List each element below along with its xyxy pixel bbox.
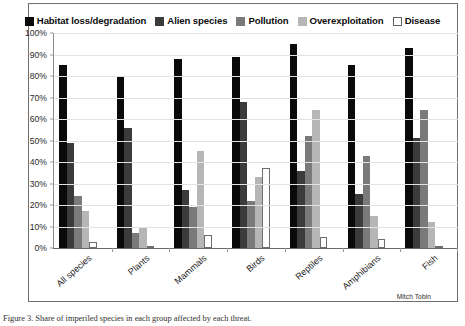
legend-swatch-icon	[236, 17, 245, 26]
gridline	[54, 33, 458, 34]
bar	[232, 57, 240, 248]
plot-canvas	[53, 33, 458, 249]
chart-legend: Habitat loss/degradationAlien speciesPol…	[0, 14, 465, 28]
bar	[435, 246, 443, 248]
bar	[197, 151, 205, 248]
figure-caption: Figure 3. Share of imperiled species in …	[3, 314, 462, 326]
plot-area: 100%90%80%70%60%50%40%30%20%10%0% All sp…	[20, 33, 465, 268]
y-axis-tick-label: 0%	[35, 243, 47, 253]
legend-swatch-icon	[298, 17, 307, 26]
bar	[405, 48, 413, 248]
gridline	[54, 98, 458, 99]
bar	[132, 233, 140, 248]
y-axis-tick-label: 90%	[30, 50, 47, 60]
bar	[320, 237, 328, 248]
y-axis-tick-label: 30%	[30, 179, 47, 189]
bar	[174, 59, 182, 248]
y-axis-tick-label: 60%	[30, 114, 47, 124]
x-axis-label: Reptiles	[293, 253, 324, 282]
bar	[413, 138, 421, 248]
legend-swatch-icon	[393, 17, 402, 26]
gridline	[54, 76, 458, 77]
bar	[355, 194, 363, 248]
bar	[305, 136, 313, 248]
bar	[297, 171, 305, 248]
y-axis-tick-label: 70%	[30, 93, 47, 103]
y-axis-tick-label: 50%	[30, 136, 47, 146]
y-axis-tick-label: 20%	[30, 200, 47, 210]
x-axis-label: Plants	[126, 253, 151, 277]
bar	[89, 242, 97, 248]
x-axis-label: Birds	[245, 253, 267, 274]
bar	[82, 211, 90, 248]
legend-label: Alien species	[167, 16, 227, 26]
bar	[370, 216, 378, 248]
x-axis-tick-mark	[457, 248, 458, 252]
gridline	[54, 227, 458, 228]
bar	[378, 239, 386, 248]
legend-item: Alien species	[155, 16, 227, 26]
legend-label: Habitat loss/degradation	[37, 16, 147, 26]
bar	[363, 156, 371, 248]
x-axis-label: Mammals	[173, 253, 209, 286]
bar	[247, 201, 255, 248]
legend-item: Disease	[393, 16, 441, 26]
legend-label: Pollution	[248, 16, 288, 26]
x-axis-labels: All speciesPlantsMammalsBirdsReptilesAmp…	[53, 249, 457, 295]
bar	[348, 65, 356, 248]
bar	[290, 44, 298, 248]
bar	[255, 177, 263, 248]
x-axis-label: Fish	[420, 253, 439, 272]
y-axis-tick-label: 10%	[30, 222, 47, 232]
figure-root: Habitat loss/degradationAlien speciesPol…	[0, 0, 465, 326]
y-axis-tick-label: 40%	[30, 157, 47, 167]
legend-item: Pollution	[236, 16, 288, 26]
bar	[67, 143, 75, 248]
y-axis-tick-label: 80%	[30, 71, 47, 81]
bar	[262, 168, 270, 248]
gridline	[54, 119, 458, 120]
gridline	[54, 205, 458, 206]
legend-swatch-icon	[155, 17, 164, 26]
bar	[59, 65, 67, 248]
gridline	[54, 184, 458, 185]
bar	[182, 190, 190, 248]
legend-item: Overexploitation	[298, 16, 384, 26]
y-axis: 100%90%80%70%60%50%40%30%20%10%0%	[20, 33, 50, 248]
bar	[204, 235, 212, 248]
legend-label: Overexploitation	[310, 16, 384, 26]
y-axis-tick-label: 100%	[25, 28, 47, 38]
bar	[139, 227, 147, 249]
legend-item: Habitat loss/degradation	[25, 16, 147, 26]
gridline	[54, 55, 458, 56]
x-axis-label: All species	[55, 253, 94, 289]
legend-label: Disease	[405, 16, 441, 26]
legend-swatch-icon	[25, 17, 34, 26]
bar	[147, 246, 155, 248]
bar	[124, 128, 132, 248]
gridline	[54, 162, 458, 163]
credit-attribution: Mitch Tobin	[397, 293, 431, 300]
bar	[189, 207, 197, 248]
gridline	[54, 141, 458, 142]
x-axis-label: Amphibians	[340, 253, 382, 291]
